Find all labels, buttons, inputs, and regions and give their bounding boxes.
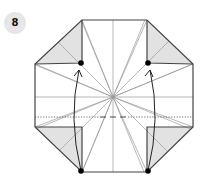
fold-arrows [74,70,155,171]
origami-diagram [0,0,205,182]
crease-line [113,41,169,97]
crease-line [113,64,193,97]
crease-line [113,97,147,172]
crease-line [82,20,113,97]
reference-dot [78,60,84,66]
reference-dot [145,60,151,66]
reference-dot [145,168,151,174]
crease-line [113,97,168,152]
crease-line [60,97,113,150]
crease-line [58,42,113,97]
crease-line [113,97,193,127]
arrow-head-icon [145,70,153,77]
reference-dot [78,168,84,174]
